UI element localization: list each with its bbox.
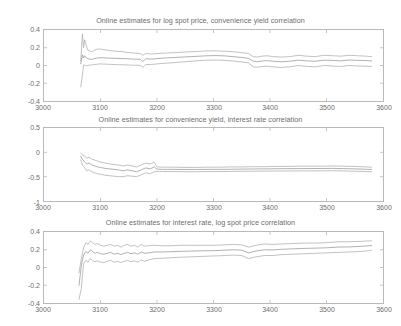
x-tick-label: 3300 bbox=[202, 204, 226, 211]
subplot-3: Online estimates for interest rate, log … bbox=[0, 216, 401, 316]
subplot-3-title: Online estimates for interest rate, log … bbox=[0, 218, 401, 227]
x-tick-label: 3200 bbox=[145, 204, 169, 211]
x-tick-label: 3200 bbox=[145, 306, 169, 313]
subplot-3-plot-area bbox=[43, 231, 384, 304]
x-tick-label: 3000 bbox=[31, 306, 55, 313]
y-tick-label: -0.2 bbox=[18, 282, 40, 289]
y-tick-label: 0.2 bbox=[18, 246, 40, 253]
y-tick-label: 0 bbox=[18, 62, 40, 69]
x-tick-label: 3400 bbox=[258, 306, 282, 313]
subplot-1: Online estimates for log spot price, con… bbox=[0, 13, 401, 109]
x-tick-label: 3600 bbox=[372, 204, 396, 211]
y-tick-label: 0.5 bbox=[18, 124, 40, 131]
y-tick-label: -0.2 bbox=[18, 80, 40, 87]
subplot-3-lines bbox=[44, 232, 383, 303]
y-tick-label: -0.5 bbox=[18, 174, 40, 181]
y-tick-label: 0.4 bbox=[18, 26, 40, 33]
x-tick-label: 3500 bbox=[315, 306, 339, 313]
subplot-1-title: Online estimates for log spot price, con… bbox=[0, 16, 401, 25]
x-tick-label: 3300 bbox=[202, 306, 226, 313]
figure-canvas: Online estimates for log spot price, con… bbox=[0, 0, 401, 326]
x-tick-label: 3100 bbox=[88, 306, 112, 313]
y-tick-label: 0.2 bbox=[18, 44, 40, 51]
subplot-1-lines bbox=[44, 30, 383, 101]
subplot-2-plot-area bbox=[43, 127, 384, 202]
x-tick-label: 3500 bbox=[315, 204, 339, 211]
x-tick-label: 3600 bbox=[372, 306, 396, 313]
x-tick-label: 3400 bbox=[258, 204, 282, 211]
x-tick-label: 3500 bbox=[315, 104, 339, 111]
x-tick-label: 3100 bbox=[88, 204, 112, 211]
subplot-2-title: Online estimates for convenience yield, … bbox=[0, 115, 401, 124]
y-tick-label: 0.4 bbox=[18, 228, 40, 235]
y-tick-label: 0 bbox=[18, 149, 40, 156]
x-tick-label: 3300 bbox=[202, 104, 226, 111]
x-tick-label: 3000 bbox=[31, 104, 55, 111]
y-tick-label: 0 bbox=[18, 264, 40, 271]
subplot-2: Online estimates for convenience yield, … bbox=[0, 113, 401, 212]
subplot-1-plot-area bbox=[43, 29, 384, 102]
x-tick-label: 3200 bbox=[145, 104, 169, 111]
subplot-2-lines bbox=[44, 128, 383, 201]
x-tick-label: 3100 bbox=[88, 104, 112, 111]
x-tick-label: 3400 bbox=[258, 104, 282, 111]
x-tick-label: 3000 bbox=[31, 204, 55, 211]
x-tick-label: 3600 bbox=[372, 104, 396, 111]
